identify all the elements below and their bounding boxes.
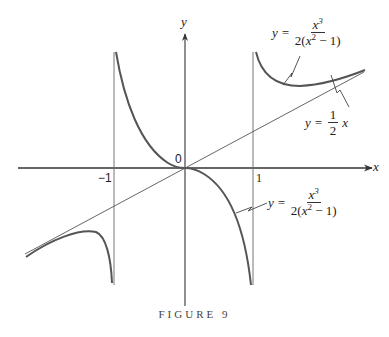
graph-canvas [0,0,389,337]
y-axis-label: y [181,14,187,30]
annotation-lower-curve: y = x3 2(x2 − 1) [268,188,337,218]
annotation-denominator: 2(x2 − 1) [291,203,337,218]
annotation-denominator: 2 [330,123,337,138]
annotation-lhs: y = [268,195,286,211]
oblique-asymptote-line [25,72,364,254]
leader-upper-curve [283,56,300,85]
annotation-upper-curve: y = x3 2(x2 − 1) [272,18,341,48]
curve-branch-right [256,52,365,86]
annotation-asymptote: y = 1 2 x [305,108,348,138]
annotation-numerator: x3 [311,18,325,33]
annotation-denominator: 2(x2 − 1) [295,33,341,48]
leader-lower-curve [236,203,267,213]
annotation-lhs: y = [305,115,323,131]
annotation-numerator: x3 [307,188,321,203]
tick-label-pos1: 1 [256,171,262,186]
annotation-numerator: 1 [328,108,339,123]
annotation-variable: x [342,115,348,131]
figure-caption: FIGURE 9 [0,308,389,320]
annotation-lhs: y = [272,25,290,41]
curve-branch-left [26,231,112,283]
tick-label-neg1: −1 [98,171,112,185]
origin-label: 0 [175,152,182,166]
x-axis-label: x [373,159,379,175]
